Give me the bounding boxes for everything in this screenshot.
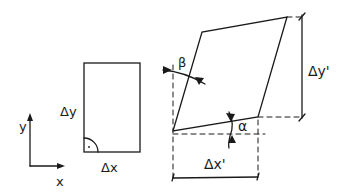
x-axis-label: x <box>56 174 64 189</box>
dx-prime-dimension-line <box>173 177 258 178</box>
beta-label: β <box>178 55 186 70</box>
delta-y-prime-label: Δy' <box>308 63 330 79</box>
coordinate-axes <box>27 113 65 169</box>
y-axis-arrow-icon <box>27 113 33 121</box>
original-element <box>84 63 140 152</box>
y-axis-label: y <box>19 119 27 134</box>
right-angle-arc <box>84 138 98 152</box>
beta-arrow-right-icon <box>195 77 204 85</box>
x-axis-arrow-icon <box>57 163 65 169</box>
shear-strain-diagram: y x Δy Δx Δy' Δx' α β <box>0 0 344 193</box>
beta-arrow-left-icon <box>163 66 172 74</box>
original-rectangle <box>84 63 140 152</box>
reference-dashed-lines <box>173 17 303 180</box>
delta-y-label: Δy <box>60 104 77 119</box>
delta-x-prime-label: Δx' <box>204 156 226 172</box>
delta-x-label: Δx <box>101 160 118 175</box>
deformed-element <box>163 13 305 181</box>
right-angle-dot <box>88 146 90 148</box>
alpha-label: α <box>238 118 247 134</box>
